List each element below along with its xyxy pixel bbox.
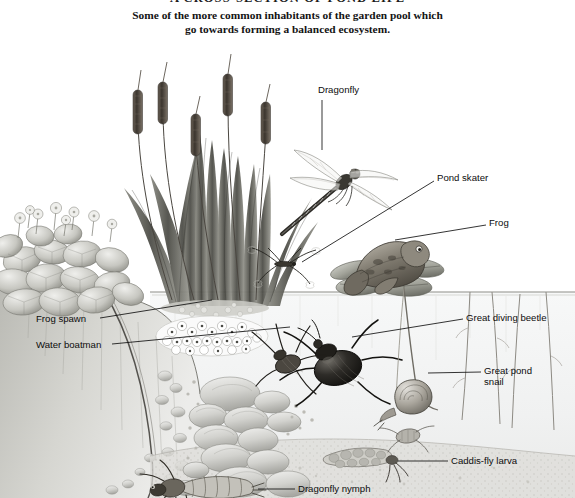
page-subtitle: Some of the more common inhabitants of t… (0, 9, 575, 36)
pond-cross-section-drawing (0, 38, 575, 498)
dragonfly-adult (282, 150, 398, 234)
label-frog-spawn: Frog spawn (36, 313, 86, 324)
bulrush-reeds (124, 54, 318, 318)
subtitle-line-1: Some of the more common inhabitants of t… (0, 9, 575, 23)
pond-life-illustration: A CROSS-SECTION OF POND LIFE Some of the… (0, 0, 575, 498)
label-great-pond-snail: Great pond snail (484, 365, 532, 388)
label-great-diving-beetle: Great diving beetle (466, 312, 547, 323)
label-frog: Frog (489, 217, 509, 228)
label-dragonfly-nymph: Dragonfly nymph (298, 483, 371, 494)
page-title: A CROSS-SECTION OF POND LIFE (0, 0, 575, 6)
label-pond-skater: Pond skater (437, 172, 488, 183)
illustration-canvas (0, 38, 575, 498)
label-caddis-fly-larva: Caddis-fly larva (451, 455, 517, 466)
frog-spawn-mass (156, 316, 268, 356)
label-water-boatman: Water boatman (36, 339, 101, 350)
leader-frog (395, 225, 486, 240)
marsh-marigold-plant (0, 202, 146, 318)
subtitle-line-2: go towards forming a balanced ecosystem. (0, 23, 575, 37)
label-dragonfly: Dragonfly (318, 84, 359, 95)
